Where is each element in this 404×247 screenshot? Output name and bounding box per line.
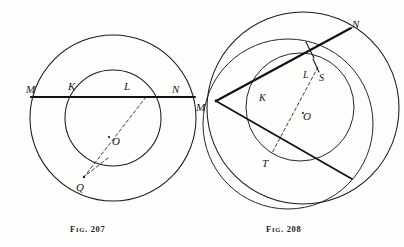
- fig208-inner-circle: [246, 53, 354, 161]
- fig208-label-M: M: [195, 101, 206, 113]
- fig-207-caption-smallcaps: IG: [76, 226, 85, 233]
- fig-208-caption-number: . 208: [281, 224, 302, 234]
- fig-207-caption: FIG. 207: [70, 224, 106, 234]
- fig-207-caption-number: . 207: [85, 224, 106, 234]
- fig-208-caption: FIG. 208: [266, 224, 302, 234]
- fig208-tick-at-L: [306, 42, 314, 58]
- fig208-secant-M-through-T: [216, 101, 352, 179]
- fig208-label-L: L: [302, 69, 309, 80]
- fig208-label-T: T: [262, 157, 269, 169]
- fig208-label-N: N: [351, 18, 360, 30]
- fig208-label-K: K: [258, 92, 267, 103]
- fig208-tick-at-S: [313, 59, 319, 72]
- fig-208-caption-smallcaps: IG: [272, 226, 281, 233]
- fig208-point-M-dot: [215, 100, 218, 103]
- figure-plate: M K L N O Q M N K L S O T FIG. 2: [0, 0, 404, 247]
- fig208-label-S: S: [319, 72, 324, 83]
- fig208-label-O: O: [303, 110, 311, 122]
- fig208-dashed-S-to-T: [272, 67, 318, 153]
- fig-208-drawing: M N K L S O T: [0, 0, 404, 247]
